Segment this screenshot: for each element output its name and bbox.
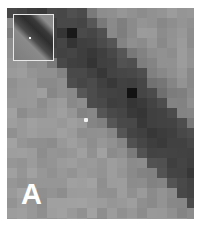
pixel-cell xyxy=(77,18,87,28)
pixel-cell xyxy=(97,68,107,78)
pixel-cell xyxy=(177,188,187,198)
pixel-cell xyxy=(17,88,27,98)
pixel-cell xyxy=(117,138,127,148)
pixel-cell xyxy=(7,98,17,108)
pixel-cell xyxy=(127,158,137,168)
pixel-cell xyxy=(27,68,37,78)
pixel-cell xyxy=(87,8,97,18)
pixel-cell xyxy=(77,208,87,218)
pixel-cell xyxy=(7,148,17,158)
pixel-cell xyxy=(97,178,107,188)
pixel-cell xyxy=(87,48,97,58)
pixel-cell xyxy=(177,128,187,138)
pixel-cell xyxy=(97,58,107,68)
pixel-cell xyxy=(107,28,117,38)
pixel-cell xyxy=(167,138,177,148)
pixel-cell xyxy=(137,148,147,158)
pixel-cell xyxy=(177,178,187,188)
pixel-cell xyxy=(87,78,97,88)
pixel-cell xyxy=(67,38,77,48)
pixel-cell xyxy=(77,98,87,108)
pixel-cell xyxy=(17,218,27,219)
pixel-cell xyxy=(157,168,167,178)
pixel-cell xyxy=(147,188,157,198)
pixel-cell xyxy=(17,148,27,158)
pixel-cell xyxy=(7,198,17,208)
pixel-cell xyxy=(97,8,107,18)
micrograph-panel: A xyxy=(7,8,194,219)
panel-label: A xyxy=(21,180,42,209)
pixel-cell xyxy=(177,88,187,98)
pixel-cell xyxy=(47,88,57,98)
pixel-cell xyxy=(27,158,37,168)
pixel-cell xyxy=(17,78,27,88)
pixel-cell xyxy=(187,58,194,68)
pixel-cell xyxy=(107,68,117,78)
pixel-cell xyxy=(137,78,147,88)
pixel-cell xyxy=(7,88,17,98)
pixel-cell xyxy=(67,158,77,168)
pixel-cell xyxy=(167,18,177,28)
pixel-cell xyxy=(27,98,37,108)
pixel-cell xyxy=(17,118,27,128)
pixel-cell xyxy=(57,28,67,38)
pixel-cell xyxy=(117,128,127,138)
pixel-cell xyxy=(137,198,147,208)
pixel-cell xyxy=(117,8,127,18)
pixel-cell xyxy=(67,18,77,28)
inset-overview xyxy=(13,14,54,61)
pixel-cell xyxy=(157,8,167,18)
pixel-cell xyxy=(167,78,177,88)
pixel-cell xyxy=(37,218,47,219)
pixel-cell xyxy=(157,118,167,128)
pixel-cell xyxy=(137,28,147,38)
pixel-cell xyxy=(117,88,127,98)
pixel-cell xyxy=(117,148,127,158)
pixel-cell xyxy=(127,148,137,158)
pixel-cell xyxy=(107,168,117,178)
pixel-cell xyxy=(87,118,97,128)
pixel-cell xyxy=(187,178,194,188)
pixel-cell xyxy=(107,148,117,158)
pixel-cell xyxy=(107,18,117,28)
pixel-cell xyxy=(127,198,137,208)
pixel-cell xyxy=(17,138,27,148)
pixel-cell xyxy=(17,98,27,108)
pixel-cell xyxy=(167,108,177,118)
pixel-cell xyxy=(157,68,167,78)
pixel-cell xyxy=(67,148,77,158)
pixel-cell xyxy=(57,18,67,28)
pixel-cell xyxy=(117,78,127,88)
pixel-cell xyxy=(117,68,127,78)
pixel-cell xyxy=(57,88,67,98)
pixel-cell xyxy=(137,98,147,108)
pixel-cell xyxy=(127,108,137,118)
pixel-cell xyxy=(147,18,157,28)
pixel-cell xyxy=(17,68,27,78)
pixel-cell xyxy=(87,208,97,218)
pixel-cell xyxy=(77,128,87,138)
pixel-cell xyxy=(57,208,67,218)
pixel-cell xyxy=(97,138,107,148)
pixel-cell xyxy=(177,28,187,38)
pixel-cell xyxy=(87,168,97,178)
pixel-cell xyxy=(137,208,147,218)
pixel-cell xyxy=(127,68,137,78)
pixel-cell xyxy=(7,218,17,219)
pixel-cell xyxy=(37,128,47,138)
pixel-cell xyxy=(157,78,167,88)
pixel-cell xyxy=(87,88,97,98)
pixel-cell xyxy=(97,98,107,108)
pixel-cell xyxy=(67,178,77,188)
pixel-cell xyxy=(97,188,107,198)
pixel-cell xyxy=(177,78,187,88)
pixel-cell xyxy=(157,38,167,48)
pixel-cell xyxy=(67,68,77,78)
pixel-cell xyxy=(177,38,187,48)
pixel-cell xyxy=(137,188,147,198)
pixel-cell xyxy=(157,148,167,158)
pixel-cell xyxy=(107,188,117,198)
pixel-cell xyxy=(87,158,97,168)
pixel-cell xyxy=(97,168,107,178)
pixel-cell xyxy=(177,138,187,148)
